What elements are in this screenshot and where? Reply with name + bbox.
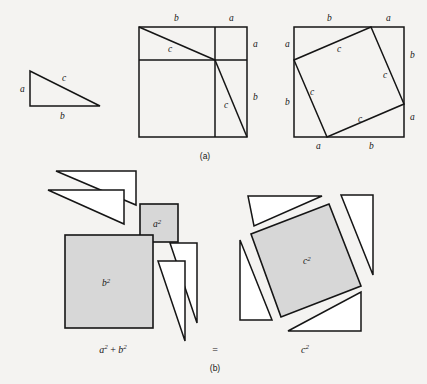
square-label-left-upper: a [285,39,290,49]
square-label-right-upper: b [410,50,415,60]
panel-a-square-right: b a a b b a a b c c c c [285,13,415,151]
inner-label-c-right: c [383,70,388,80]
triangle-label-b: b [60,111,65,121]
square-label-top-left: b [174,13,179,23]
equation-right-side: c2 [301,343,309,355]
panel-b-right-group: c2 [240,195,373,331]
inner-label-c-top: c [337,44,342,54]
square-label-right-lower: b [253,92,258,102]
panel-a-caption: (a) [200,151,211,161]
panel-b-caption: (b) [210,363,221,373]
panel-a-right-triangle: a b c [20,71,100,121]
triangle-right-2 [158,261,185,341]
square-label-bottom-left: a [316,141,321,151]
triangle-top-2 [48,190,124,224]
square-label-left-lower: b [285,97,290,107]
square-outline [139,27,247,137]
square-label-c-upper: c [168,44,173,54]
equation-left-side: a2 + b2 [99,343,127,355]
square-label-c-lower: c [224,100,229,110]
square-label-top-right: a [386,13,391,23]
square-label-right-lower: a [410,112,415,122]
square-label-right-upper: a [253,39,258,49]
panel-a-square-middle: b a a b c c [139,13,258,137]
square-label-top-left: b [327,13,332,23]
pythagorean-figure: a b c b a a b c c [0,0,427,384]
hypotenuse-upper [139,27,215,60]
triangle-label-a: a [20,84,25,94]
figure-canvas: a b c b a a b c c [0,0,427,384]
square-label-bottom-right: b [369,141,374,151]
hypotenuse-lower [215,60,247,137]
equation-equals-sign: = [212,344,218,355]
square-outline [294,27,404,137]
panel-b-left-group: a2 b2 [48,171,197,341]
square-label-top-right: a [229,13,234,23]
triangle-label-c: c [62,73,67,83]
inner-label-c-left: c [310,87,315,97]
inner-square-c [294,27,404,137]
